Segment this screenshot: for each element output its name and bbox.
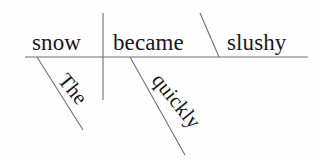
predicate-adjective-word: slushy xyxy=(227,31,286,54)
sentence-diagram: snow became slushy The quickly xyxy=(0,0,320,160)
verb-word: became xyxy=(113,31,184,54)
predicate-adjective-slant-rule xyxy=(200,13,219,57)
subject-word: snow xyxy=(32,31,81,54)
